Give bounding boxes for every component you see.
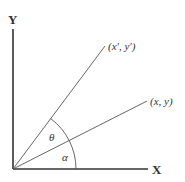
- ray-rotated-point: [13, 46, 105, 169]
- x-axis-label: X: [152, 162, 162, 177]
- ray-original-point: [13, 101, 147, 169]
- alpha-label: α: [62, 151, 68, 163]
- theta-label: θ: [49, 131, 55, 143]
- rotation-diagram: Y X (x′, y′) (x, y) θ α: [0, 0, 185, 182]
- y-axis-label: Y: [8, 12, 18, 27]
- rotated-point-label: (x′, y′): [108, 40, 136, 53]
- original-point-label: (x, y): [150, 95, 173, 108]
